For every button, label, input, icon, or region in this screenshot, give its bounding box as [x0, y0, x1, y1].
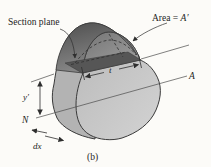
figure-page: Section plane Area = A′ t A N y′ dx (b) [0, 0, 211, 167]
area-label-variable: A′ [180, 13, 190, 23]
dx-label: dx [33, 141, 42, 151]
axis-a-label: A [188, 71, 195, 81]
figure-caption: (b) [87, 152, 98, 163]
axis-n-label: N [21, 115, 29, 125]
beam-section-figure: Section plane Area = A′ t A N y′ dx (b) [0, 0, 211, 167]
section-plane-label: Section plane [8, 17, 59, 27]
area-label-prefix: Area = [152, 13, 181, 23]
area-label: Area = A′ [152, 13, 189, 23]
y-prime-label: y′ [22, 92, 30, 102]
